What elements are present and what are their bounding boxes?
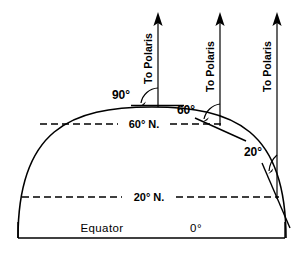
- polaris-90-label: To Polaris: [142, 33, 154, 84]
- angle-mark-20: 20°: [244, 145, 277, 174]
- zero-degree-label: 0°: [190, 222, 202, 234]
- latitude-line-60n: 60° N.: [40, 118, 222, 130]
- latitude-20n-label: 20° N.: [134, 191, 165, 203]
- equator-label: Equator: [80, 222, 123, 234]
- angle-mark-90: 90°: [112, 88, 158, 107]
- latitude-60n-label: 60° N.: [129, 118, 160, 130]
- polaris-60-label: To Polaris: [204, 41, 216, 92]
- angle-90-arc: [141, 88, 158, 103]
- polaris-20-label: To Polaris: [261, 41, 273, 92]
- polaris-arrow-90: To Polaris: [142, 12, 163, 107]
- angle-60-arrowhead: [203, 117, 210, 122]
- angle-20-label: 20°: [244, 145, 262, 159]
- latitude-line-20n: 20° N.: [22, 191, 279, 203]
- polaris-arrow-60: To Polaris: [204, 12, 225, 126]
- diagram-canvas: 60° N. 20° N. To Polaris 90°: [0, 0, 304, 260]
- angle-90-label: 90°: [112, 88, 130, 102]
- angle-60-label: 60°: [177, 103, 195, 117]
- polaris-latitude-diagram: 60° N. 20° N. To Polaris 90°: [0, 0, 304, 260]
